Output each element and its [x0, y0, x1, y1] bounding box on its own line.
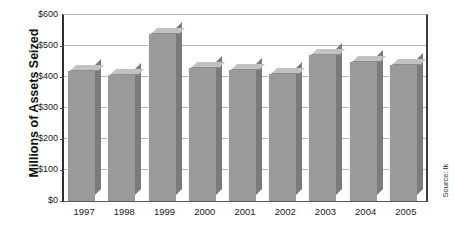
- bar-side-face: [336, 43, 342, 195]
- bar-body: [268, 74, 296, 201]
- bar-front-face: [349, 62, 377, 201]
- bar-1998[interactable]: [107, 14, 141, 201]
- y-tick-label: $200: [14, 133, 58, 143]
- bar-front-face: [389, 65, 417, 201]
- bar-front-face: [107, 75, 135, 201]
- chart-title: [46, 0, 376, 3]
- bar-side-face: [216, 56, 222, 195]
- x-tick-label: 1997: [61, 206, 107, 217]
- bar-top-face: [110, 69, 144, 75]
- x-tick-label: 2002: [262, 206, 308, 217]
- bar-top-face: [151, 28, 185, 34]
- bar-side-face: [176, 22, 182, 195]
- x-tick-label: 2004: [343, 206, 389, 217]
- bar-body: [349, 62, 377, 201]
- bar-series: [64, 14, 426, 201]
- y-tick-mark: [60, 201, 64, 202]
- bar-2002[interactable]: [268, 14, 302, 201]
- bar-1999[interactable]: [148, 14, 182, 201]
- y-tick-label: $100: [14, 164, 58, 174]
- bar-2004[interactable]: [349, 14, 383, 201]
- bar-2001[interactable]: [228, 14, 262, 201]
- bar-side-face: [256, 58, 262, 195]
- bar-body: [228, 70, 256, 201]
- bar-2000[interactable]: [188, 14, 222, 201]
- bar-body: [308, 55, 336, 201]
- bar-top-face: [231, 64, 265, 70]
- bar-body: [389, 65, 417, 201]
- bar-body: [67, 71, 95, 201]
- y-tick-label: $400: [14, 71, 58, 81]
- y-tick-label: $300: [14, 102, 58, 112]
- bar-front-face: [67, 71, 95, 201]
- bar-side-face: [296, 62, 302, 195]
- bar-front-face: [188, 68, 216, 201]
- bar-side-face: [417, 53, 423, 195]
- x-tick-label: 2000: [182, 206, 228, 217]
- y-tick-label: $500: [14, 40, 58, 50]
- y-tick-label: $0: [14, 195, 58, 205]
- x-tick-label: 1999: [142, 206, 188, 217]
- bar-front-face: [268, 74, 296, 201]
- bar-body: [148, 34, 176, 201]
- bar-1997[interactable]: [67, 14, 101, 201]
- bar-front-face: [148, 34, 176, 201]
- bar-front-face: [228, 70, 256, 201]
- source-note: Source: tk: [441, 136, 450, 226]
- bar-2005[interactable]: [389, 14, 423, 201]
- chart-figure: Millions of Assets Seized Source: tk $60…: [0, 0, 454, 236]
- bar-top-face: [70, 65, 104, 71]
- bar-front-face: [308, 55, 336, 201]
- bar-side-face: [95, 59, 101, 195]
- x-tick-label: 1998: [101, 206, 147, 217]
- x-tick-label: 2003: [302, 206, 348, 217]
- bar-2003[interactable]: [308, 14, 342, 201]
- bar-top-face: [392, 59, 426, 65]
- bar-side-face: [377, 50, 383, 195]
- y-tick-label: $600: [14, 9, 58, 19]
- bar-body: [107, 75, 135, 201]
- bar-body: [188, 68, 216, 201]
- bar-side-face: [135, 63, 141, 195]
- x-tick-label: 2005: [383, 206, 429, 217]
- x-tick-label: 2001: [222, 206, 268, 217]
